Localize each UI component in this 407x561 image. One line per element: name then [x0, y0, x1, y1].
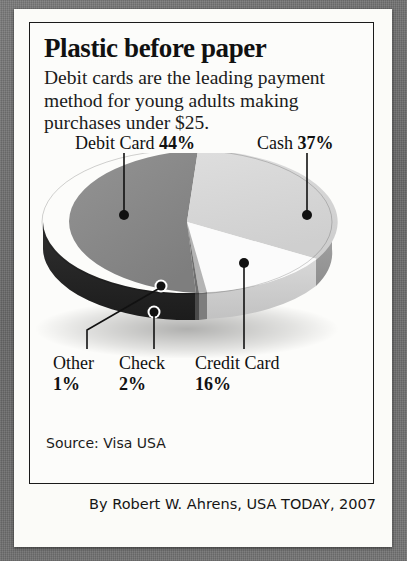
pie-chart [30, 153, 375, 358]
source-note: Source: Visa USA [46, 435, 166, 451]
label-cash-pct: 37% [298, 133, 334, 153]
leader-dot-cash [302, 210, 312, 220]
label-other-name: Other [53, 353, 94, 373]
label-cash-name: Cash [257, 133, 293, 153]
label-check: Check 2% [119, 353, 165, 395]
label-other: Other 1% [53, 353, 94, 395]
graphic-frame: Plastic before paper Debit cards are the… [29, 22, 374, 484]
leader-dot-debit-card [119, 210, 129, 220]
byline: By Robert W. Ahrens, USA TODAY, 2007 [14, 496, 376, 512]
subtitle-text: Debit cards are the leading payment meth… [44, 67, 366, 135]
label-credit-card-name: Credit Card [195, 353, 279, 373]
page-title: Plastic before paper [44, 33, 364, 63]
label-check-pct: 2% [119, 374, 165, 395]
newspaper-page: Plastic before paper Debit cards are the… [14, 9, 392, 547]
label-check-name: Check [119, 353, 165, 373]
leader-dot-credit-card [239, 258, 249, 268]
label-debit-card-name: Debit Card [75, 133, 154, 153]
pie-slice-debit-card [69, 153, 198, 293]
pie-side-check [199, 292, 207, 320]
label-cash: Cash 37% [257, 133, 334, 154]
pie-side-other [195, 293, 199, 320]
leader-dot-check [150, 308, 159, 317]
pie-chart-svg [30, 153, 375, 358]
label-debit-card: Debit Card 44% [75, 133, 195, 154]
label-debit-card-pct: 44% [159, 133, 195, 153]
label-credit-card: Credit Card 16% [195, 353, 279, 395]
label-credit-card-pct: 16% [195, 374, 279, 395]
label-other-pct: 1% [53, 374, 94, 395]
